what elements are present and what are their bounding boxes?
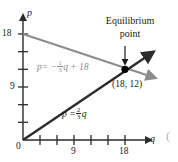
equilibrium-label-line1: Equilibrium xyxy=(93,16,167,26)
demand-equation-constant: + 18 xyxy=(70,62,88,72)
y-tick-label-9: 9 xyxy=(10,82,15,92)
demand-equation: p= −13q + 18 xyxy=(37,60,89,75)
demand-fraction-denominator: 3 xyxy=(57,66,62,74)
supply-equation-p: p xyxy=(62,109,67,119)
supply-equation: p =23q xyxy=(62,107,87,122)
supply-fraction-numerator: 2 xyxy=(76,107,81,114)
y-tick-label-18: 18 xyxy=(2,29,12,39)
demand-equation-fraction: 13 xyxy=(57,60,62,75)
origin-label: 0 xyxy=(16,142,21,152)
x-tick-label-18: 18 xyxy=(119,147,129,157)
equilibrium-point-marker xyxy=(121,66,128,73)
supply-demand-chart: p q 0 18 9 9 18 p= −13q + 18 p =23q Equi… xyxy=(0,0,178,162)
equilibrium-coordinate-label: (18, 12) xyxy=(112,80,142,90)
x-axis-label: q xyxy=(150,134,155,144)
supply-fraction-denominator: 3 xyxy=(76,113,81,121)
supply-equation-fraction: 23 xyxy=(76,107,81,122)
demand-equation-operator: = − xyxy=(42,62,57,72)
scan-artifact: ( xyxy=(166,128,170,144)
equilibrium-label-line2: point xyxy=(93,29,167,39)
supply-equation-variable: q xyxy=(82,109,87,119)
demand-equation-variable: q xyxy=(63,62,68,72)
x-tick-label-9: 9 xyxy=(71,147,76,157)
demand-fraction-numerator: 1 xyxy=(57,60,62,67)
supply-equation-operator: = xyxy=(69,109,75,119)
y-axis-label: p xyxy=(27,8,32,18)
